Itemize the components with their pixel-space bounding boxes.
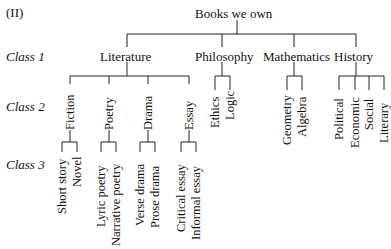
node-informal-essay: Informal essay (190, 166, 203, 240)
node-prose-drama: Prose drama (149, 166, 162, 228)
node-poetry: Poetry (103, 97, 116, 130)
node-economic: Economic (349, 97, 362, 148)
node-verse-drama: Verse drama (134, 164, 147, 226)
node-literature: Literature (100, 50, 151, 63)
root-node: Books we own (195, 7, 272, 20)
node-social: Social (363, 99, 376, 130)
node-literary: Literary (378, 103, 391, 143)
node-logic: Logic (224, 91, 237, 120)
node-narrative-poetry: Narrative poetry (110, 164, 123, 246)
class-2-label: Class 2 (6, 100, 45, 113)
node-algebra: Algebra (296, 97, 309, 137)
node-fiction: Fiction (64, 95, 77, 130)
node-ethics: Ethics (209, 97, 222, 128)
node-short-story: Short story (56, 159, 69, 214)
class-3-label: Class 3 (6, 158, 45, 171)
node-lyric-poetry: Lyric poetry (95, 166, 108, 227)
node-mathematics: Mathematics (263, 50, 330, 63)
node-novel: Novel (71, 156, 84, 187)
node-geometry: Geometry (281, 95, 294, 145)
node-drama: Drama (142, 96, 155, 130)
node-political: Political (333, 98, 346, 140)
class-1-label: Class 1 (6, 50, 45, 63)
figure-label: (II) (6, 6, 23, 19)
node-philosophy: Philosophy (195, 50, 254, 63)
node-history: History (334, 50, 373, 63)
node-essay: Essay (183, 101, 196, 130)
node-critical-essay: Critical essay (175, 164, 188, 232)
